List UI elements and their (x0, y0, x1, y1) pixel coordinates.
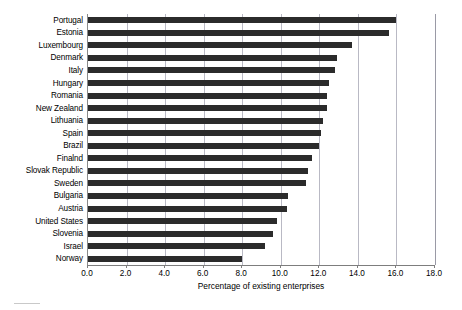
category-axis-labels: PortugalEstoniaLuxembourgDenmarkItalyHun… (0, 14, 83, 265)
x-tick-label: 12.0 (310, 269, 326, 278)
category-label: Romania (0, 91, 83, 100)
bar (88, 218, 277, 224)
bar (88, 206, 287, 212)
x-tick-label: 4.0 (158, 269, 169, 278)
bar (88, 155, 312, 161)
x-tick (318, 265, 319, 268)
bar (88, 30, 389, 36)
x-tick (395, 265, 396, 268)
category-label: Portugal (0, 16, 83, 25)
x-tick-label: 10.0 (272, 269, 288, 278)
x-tick (241, 265, 242, 268)
bar (88, 231, 273, 237)
bar (88, 67, 335, 73)
category-label: Israel (0, 242, 83, 251)
category-label: Estonia (0, 28, 83, 37)
plot-wrapper: PortugalEstoniaLuxembourgDenmarkItalyHun… (0, 0, 462, 310)
bar (88, 93, 327, 99)
category-label: New Zealand (0, 104, 83, 113)
x-axis-title: Percentage of existing enterprises (87, 281, 435, 291)
bar (88, 55, 337, 61)
gridline (127, 14, 128, 265)
x-tick-label: 0.0 (81, 269, 92, 278)
bar (88, 168, 308, 174)
category-label: Lithuania (0, 116, 83, 125)
bar (88, 193, 288, 199)
bar (88, 80, 329, 86)
bar (88, 17, 396, 23)
x-tick (126, 265, 127, 268)
bar-chart: PortugalEstoniaLuxembourgDenmarkItalyHun… (0, 0, 462, 310)
category-label: Brazil (0, 141, 83, 150)
gridline (435, 14, 436, 265)
category-label: Sweden (0, 179, 83, 188)
category-label: Slovak Republic (0, 166, 83, 175)
x-tick (357, 265, 358, 268)
bar (88, 180, 306, 186)
category-label: Norway (0, 254, 83, 263)
x-tick (203, 265, 204, 268)
gridline (242, 14, 243, 265)
gridline (281, 14, 282, 265)
x-tick-label: 8.0 (236, 269, 247, 278)
x-tick (280, 265, 281, 268)
x-tick-label: 16.0 (387, 269, 403, 278)
bar (88, 118, 323, 124)
bar (88, 105, 327, 111)
gridline (204, 14, 205, 265)
x-tick-label: 18.0 (426, 269, 442, 278)
footer-rule (14, 303, 40, 304)
bar (88, 42, 352, 48)
plot-area (87, 14, 435, 265)
category-label: Slovenia (0, 229, 83, 238)
gridline (358, 14, 359, 265)
bar (88, 143, 319, 149)
category-label: Denmark (0, 53, 83, 62)
category-label: Bulgaria (0, 191, 83, 200)
category-label: Finalnd (0, 154, 83, 163)
category-label: Luxembourg (0, 41, 83, 50)
gridline (396, 14, 397, 265)
x-tick (164, 265, 165, 268)
gridline (319, 14, 320, 265)
x-axis-line (87, 265, 435, 266)
bar (88, 130, 321, 136)
bar (88, 243, 265, 249)
x-tick (434, 265, 435, 268)
category-label: Austria (0, 204, 83, 213)
gridline (165, 14, 166, 265)
category-label: United States (0, 217, 83, 226)
x-tick-label: 6.0 (197, 269, 208, 278)
x-tick (87, 265, 88, 268)
x-tick-label: 14.0 (349, 269, 365, 278)
category-label: Spain (0, 129, 83, 138)
category-label: Hungary (0, 79, 83, 88)
x-tick-label: 2.0 (120, 269, 131, 278)
category-label: Italy (0, 66, 83, 75)
bar (88, 256, 242, 262)
